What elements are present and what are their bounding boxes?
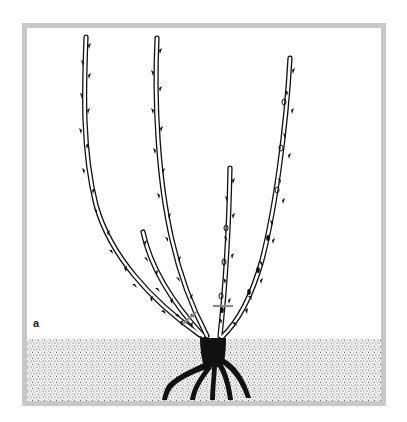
cane-far-right	[222, 58, 290, 337]
figure-label: a	[33, 317, 39, 329]
cane-far-left	[85, 37, 200, 335]
rose-bush-illustration	[0, 0, 407, 422]
